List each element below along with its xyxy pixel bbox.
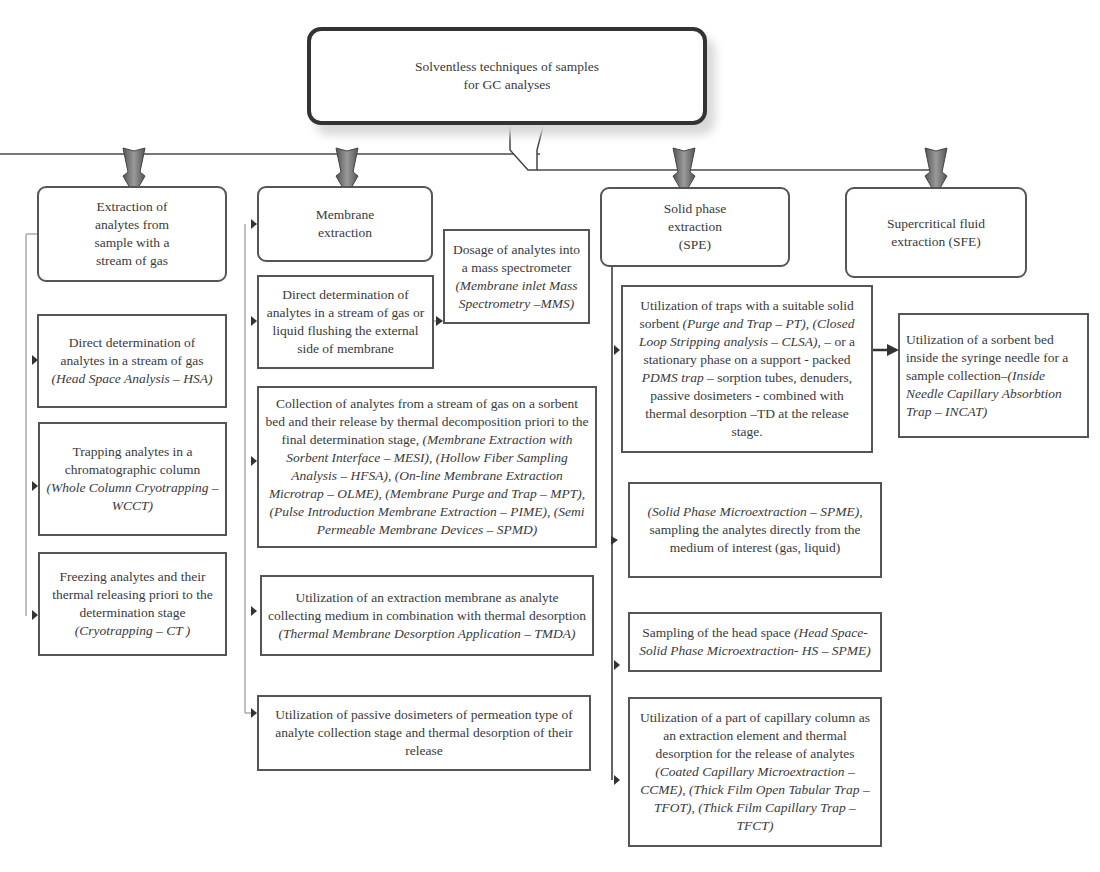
membrane-item-direct: Direct determination of analytes in a st… [257,275,434,369]
membrane-item-italic: (Thermal Membrane Desorption Application… [278,626,575,641]
membrane-item-mesi: Collection of analytes from a stream of … [257,386,597,548]
spe-branch-arrow-3-icon [614,660,620,670]
spe-item-text: Sampling of the head space [642,625,790,640]
gas-item-wcct: Trapping analytes in a chromatographic c… [38,422,227,536]
gas-item-hsa: Direct determination of analytes in a st… [37,314,227,408]
spe-item-italic: PDMS trap [642,370,704,385]
gas-item-italic: (Head Space Analysis – HSA) [52,371,213,386]
category-sfe-label: Supercritical fluid extraction (SFE) [871,215,1001,251]
spe-item-hsspme: Sampling of the head space (Head Space- … [628,612,882,672]
root-title: Solventless techniques of samples for GC… [407,58,607,94]
membrane-item-italic: (Membrane Extraction with Sorbent Interf… [269,432,585,537]
spe-item-italic: (Coated Capillary Microextraction – CCME… [640,764,869,833]
mms-arrow-icon [436,316,443,326]
gas-item-text: Trapping analytes in a chromatographic c… [65,444,200,477]
spe-item-text: sampling the analytes directly from the … [649,522,860,555]
category-spe-label: Solid phase extraction (SPE) [655,200,735,254]
gas-item-ct: Freezing analytes and their thermal rele… [38,552,227,656]
membrane-branch-arrow-3-icon [251,606,257,616]
spe-branch-arrow-4-icon [614,775,620,785]
gas-item-text: Freezing analytes and their thermal rele… [52,569,212,620]
membrane-item-tmda: Utilization of an extraction membrane as… [260,575,594,656]
category-gas: Extraction of analytes from sample with … [37,186,227,282]
spe-item-italic: (Solid Phase Microextraction – SPME), [647,504,862,519]
category-gas-label: Extraction of analytes from sample with … [77,198,187,270]
gas-item-text: Direct determination of analytes in a st… [61,335,204,368]
category-membrane: Membrane extraction [257,186,433,262]
membrane-item-passive: Utilization of passive dosimeters of per… [257,695,591,771]
category-sfe: Supercritical fluid extraction (SFE) [845,187,1027,278]
mms-text: Dosage of analytes into a mass spectrome… [453,242,580,275]
spe-item-pt: Utilization of traps with a suitable sol… [621,285,873,453]
membrane-item-text: Utilization of passive dosimeters of per… [265,706,583,760]
spe-item-spme: (Solid Phase Microextraction – SPME), sa… [628,482,882,578]
spe-branch-arrow-1-icon [614,345,620,355]
mms-italic: (Membrane inlet Mass Spectrometry –MMS) [455,278,577,311]
membrane-sub-mms: Dosage of analytes into a mass spectrome… [443,229,590,324]
category-spe: Solid phase extraction (SPE) [600,187,790,267]
root-box: Solventless techniques of samples for GC… [307,27,707,125]
spe-sub-incat: Utilization of a sorbent bed inside the … [898,313,1089,438]
spe-branch-arrow-2-icon [611,536,618,545]
membrane-item-text: Direct determination of analytes in a st… [265,286,426,358]
gas-item-italic: (Whole Column Cryotrapping – WCCT) [46,480,218,513]
spe-item-ccme: Utilization of a part of capillary colum… [628,697,882,847]
membrane-item-text: Utilization of an extraction membrane as… [268,590,586,623]
gas-item-italic: (Cryotrapping – CT ) [75,623,191,638]
category-membrane-label: Membrane extraction [305,206,385,242]
spe-item-text: Utilization of a part of capillary colum… [640,710,870,761]
